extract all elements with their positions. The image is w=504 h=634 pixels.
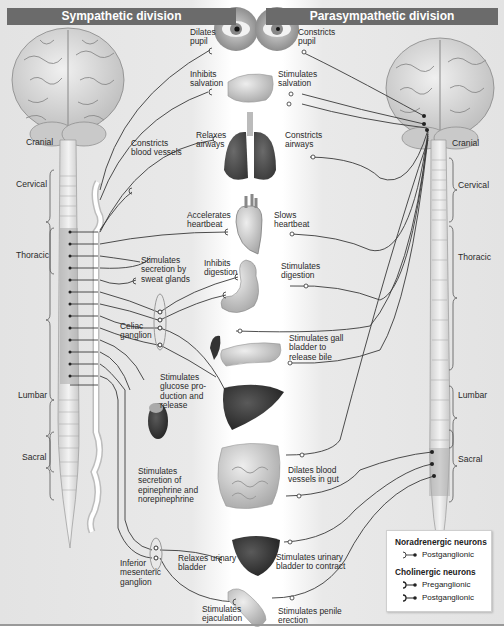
label-inhibits-salivation: Inhibits salvation	[190, 70, 223, 89]
label-dilates-gut-vessels: Dilates blood vessels in gut	[288, 466, 339, 485]
legend-noradrenergic-title: Noradrenergic neurons	[395, 537, 487, 547]
left-label-lumbar: Lumbar	[18, 390, 47, 400]
legend-noradrenergic-postganglionic: Postganglionic	[401, 550, 474, 559]
right-label-cranial: Cranial	[452, 138, 479, 148]
label-stimulates-bladder-contract: Stimulates urinary bladder to contract	[276, 553, 345, 572]
label-stimulates-erection: Stimulates penile erection	[278, 607, 342, 626]
label-stimulates-glucose: Stimulates glucose pro- duction and rele…	[160, 373, 206, 411]
label-relaxes-urinary-bladder: Relaxes urinary bladder	[178, 554, 236, 573]
label-accelerates-heartbeat: Accelerates heartbeat	[187, 211, 231, 230]
label-stimulates-ejaculation: Stimulates ejaculation	[202, 605, 242, 624]
right-label-lumbar: Lumbar	[458, 390, 487, 400]
right-label-thoracic: Thoracic	[458, 252, 491, 262]
intestines	[218, 443, 280, 508]
left-label-sacral: Sacral	[22, 452, 46, 462]
sympathetic-header: Sympathetic division	[7, 8, 236, 25]
legend-cholinergic-title: Cholinergic neurons	[395, 567, 476, 577]
postganglionic-symbol-icon	[401, 551, 419, 559]
preganglionic-symbol-icon	[401, 581, 419, 589]
salivary-gland	[228, 74, 273, 102]
label-constricts-airways: Constricts airways	[285, 131, 322, 150]
right-label-sacral: Sacral	[458, 454, 482, 464]
autonomic-nervous-system-diagram: Sympathetic division Parasympathetic div…	[0, 0, 504, 634]
label-relaxes-airways: Relaxes airways	[196, 131, 226, 150]
label-stimulates-salivation: Stimulates salvation	[278, 70, 317, 89]
label-stimulates-sweat-glands: Stimulates secretion by sweat glands	[141, 256, 190, 284]
label-stimulates-epinephrine: Stimulates secretion of epinephrine and …	[138, 467, 198, 505]
legend-cholinergic-preganglionic: Preganglionic	[401, 580, 470, 589]
left-label-cranial: Cranial	[26, 137, 53, 147]
label-stimulates-digestion: Stimulates digestion	[281, 262, 320, 281]
label-celiac-ganglion: Celiac ganglion	[120, 322, 152, 341]
label-stimulates-gallbladder: Stimulates gall bladder to release bile	[289, 334, 343, 362]
label-inferior-mesenteric-ganglion: Inferior mesenteric ganglion	[120, 559, 161, 587]
bottom-divider	[0, 624, 504, 626]
label-inhibits-digestion: Inhibits digestion	[204, 259, 238, 278]
label-constricts-pupil: Constricts pupil	[298, 28, 335, 47]
parasympathetic-header: Parasympathetic division	[266, 8, 498, 25]
postganglionic-symbol-icon	[401, 594, 419, 602]
left-label-thoracic: Thoracic	[16, 250, 49, 260]
label-slows-heartbeat: Slows heartbeat	[274, 211, 309, 230]
right-spinal-cord	[429, 140, 450, 560]
legend: Noradrenergic neurons Postganglionic Cho…	[386, 530, 492, 612]
right-label-cervical: Cervical	[458, 180, 489, 190]
legend-cholinergic-postganglionic: Postganglionic	[401, 593, 474, 602]
left-label-cervical: Cervical	[16, 179, 47, 189]
label-constricts-blood-vessels: Constricts blood vessels	[131, 139, 182, 158]
label-dilates-pupil: Dilates pupil	[190, 28, 216, 47]
